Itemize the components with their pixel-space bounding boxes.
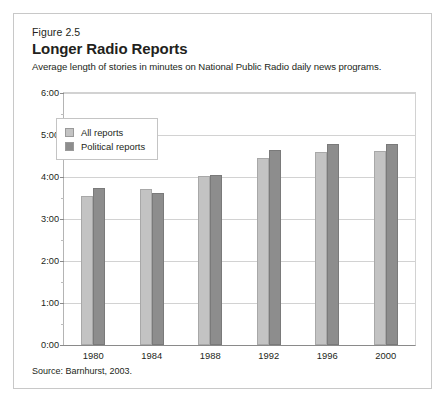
legend-item-all-reports: All reports (65, 125, 145, 139)
bar-group (298, 93, 357, 345)
x-axis-tick-label: 1988 (200, 350, 221, 361)
legend-swatch-political-reports (65, 142, 74, 151)
y-axis-tick-label: 0:00 (41, 340, 59, 350)
figure-title: Longer Radio Reports (32, 40, 188, 57)
y-axis-tick-mark (60, 345, 64, 346)
bar (315, 152, 327, 345)
legend-item-political-reports: Political reports (65, 139, 145, 153)
source-note: Source: Barnhurst, 2003. (32, 366, 132, 376)
bar (327, 144, 339, 345)
bar (152, 193, 164, 345)
figure-number: Figure 2.5 (32, 26, 80, 38)
bar (374, 151, 386, 345)
bar (81, 196, 93, 345)
bar (198, 176, 210, 345)
legend-swatch-all-reports (65, 128, 74, 137)
bar-group (357, 93, 416, 345)
bar (386, 144, 398, 345)
y-axis-tick-label: 3:00 (41, 214, 59, 224)
bar (140, 189, 152, 345)
bar-group (240, 93, 299, 345)
bar (269, 150, 281, 345)
legend-label-political-reports: Political reports (81, 141, 145, 152)
bar-group (181, 93, 240, 345)
chart-plot-wrapper: 0:001:002:003:004:005:006:00 19801984198… (32, 82, 416, 352)
x-axis-tick-label: 2000 (375, 350, 396, 361)
y-axis-tick-label: 4:00 (41, 172, 59, 182)
y-axis-tick-label: 1:00 (41, 298, 59, 308)
chart-legend: All reports Political reports (56, 118, 158, 160)
bar (257, 158, 269, 345)
bar (210, 175, 222, 345)
bar (93, 188, 105, 345)
x-axis-tick-label: 1984 (141, 350, 162, 361)
y-axis-tick-label: 6:00 (41, 88, 59, 98)
figure-subtitle: Average length of stories in minutes on … (32, 61, 381, 72)
x-axis-tick-label: 1992 (258, 350, 279, 361)
x-axis-tick-label: 1996 (317, 350, 338, 361)
y-axis-tick-label: 2:00 (41, 256, 59, 266)
x-axis-tick-label: 1980 (83, 350, 104, 361)
figure-card: Figure 2.5 Longer Radio Reports Average … (13, 13, 432, 389)
legend-label-all-reports: All reports (81, 127, 123, 138)
